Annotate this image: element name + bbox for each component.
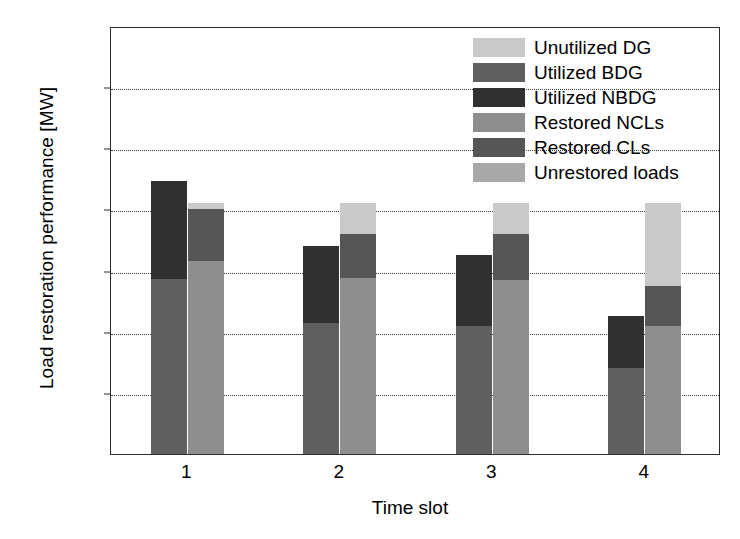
legend-label: Restored CLs	[534, 138, 650, 157]
bar-segment	[188, 203, 224, 209]
x-tick-label: 3	[461, 461, 521, 483]
legend-swatch	[473, 88, 525, 107]
bar-segment	[456, 255, 492, 325]
x-axis-label: Time slot	[100, 497, 720, 519]
bar-segment	[608, 368, 644, 454]
x-tick-label: 4	[614, 461, 674, 483]
bar-generation-slot-1	[151, 26, 187, 454]
bar-segment	[303, 323, 339, 454]
y-axis-label: Load restoration performance [MW]	[36, 8, 58, 468]
legend-item: Restored NCLs	[473, 111, 679, 134]
bar-segment	[151, 181, 187, 279]
bar-segment	[151, 279, 187, 454]
bar-segment	[645, 326, 681, 454]
bar-segment	[608, 316, 644, 368]
legend-item: Restored CLs	[473, 136, 679, 159]
legend-label: Restored NCLs	[534, 113, 664, 132]
bar-segment	[188, 261, 224, 454]
bar-segment	[303, 246, 339, 322]
bar-segment	[456, 326, 492, 454]
bar-load-slot-1	[188, 26, 224, 454]
bar-segment	[340, 278, 376, 454]
bar-segment	[340, 234, 376, 278]
bar-segment	[645, 286, 681, 326]
legend-swatch	[473, 63, 525, 82]
legend-label: Utilized NBDG	[534, 88, 656, 107]
x-tick-label: 1	[156, 461, 216, 483]
legend-swatch	[473, 113, 525, 132]
x-tick-label: 2	[309, 461, 369, 483]
legend-item: Unutilized DG	[473, 36, 679, 59]
legend-swatch	[473, 138, 525, 157]
legend-label: Unrestored loads	[534, 163, 679, 182]
legend-swatch	[473, 163, 525, 182]
bar-generation-slot-2	[303, 26, 339, 454]
legend-item: Unrestored loads	[473, 161, 679, 184]
bar-chart: Load restoration performance [MW] Time s…	[0, 0, 740, 539]
bar-segment	[493, 234, 529, 280]
bar-segment	[645, 203, 681, 286]
bar-segment	[493, 203, 529, 234]
legend-swatch	[473, 38, 525, 57]
bar-segment	[493, 280, 529, 454]
legend-item: Utilized BDG	[473, 61, 679, 84]
legend-item: Utilized NBDG	[473, 86, 679, 109]
bar-load-slot-2	[340, 26, 376, 454]
bar-segment	[340, 203, 376, 234]
bar-segment	[188, 209, 224, 261]
legend-label: Unutilized DG	[534, 38, 651, 57]
legend-label: Utilized BDG	[534, 63, 643, 82]
legend: Unutilized DGUtilized BDGUtilized NBDGRe…	[473, 36, 679, 184]
